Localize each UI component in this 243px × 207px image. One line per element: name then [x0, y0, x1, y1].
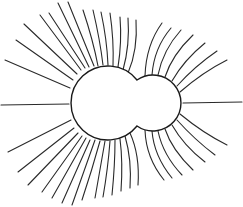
diagram-canvas: [0, 0, 243, 207]
two-sphere-outline: [71, 66, 181, 140]
conductor-bodies: [71, 66, 181, 140]
field-lines-right-horizontal: [183, 102, 242, 103]
field-line-diagram: [0, 0, 243, 207]
field-lines-left-horizontal: [1, 104, 69, 105]
